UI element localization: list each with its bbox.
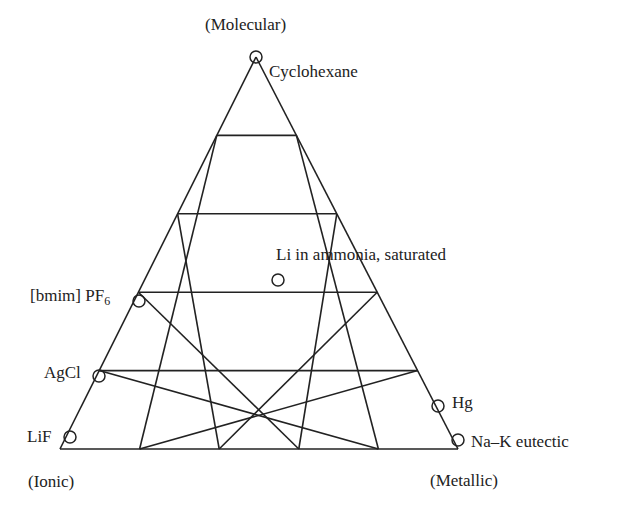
point-label-bmim-pf6: [bmim] PF6 xyxy=(30,287,110,307)
edge-left xyxy=(60,57,256,449)
bmim-pf6-text: [bmim] PF xyxy=(30,286,104,305)
vertex-label-ionic: (Ionic) xyxy=(28,473,74,490)
bmim-pf6-subscript: 6 xyxy=(104,294,110,308)
point-label-li-ammonia: Li in ammonia, saturated xyxy=(276,246,446,263)
point-marker xyxy=(272,274,284,286)
point-label-cyclohexane: Cyclohexane xyxy=(269,63,358,80)
vertex-label-metallic: (Metallic) xyxy=(430,472,498,489)
vertex-label-molecular: (Molecular) xyxy=(205,16,286,33)
point-label-lif: LiF xyxy=(27,428,52,445)
grid-line-parallel-right xyxy=(178,214,220,449)
grid-line-parallel-right xyxy=(99,371,378,449)
point-label-hg: Hg xyxy=(452,394,473,411)
point-label-na-k-eutectic: Na–K eutectic xyxy=(471,433,569,450)
point-label-agcl: AgCl xyxy=(44,364,81,381)
